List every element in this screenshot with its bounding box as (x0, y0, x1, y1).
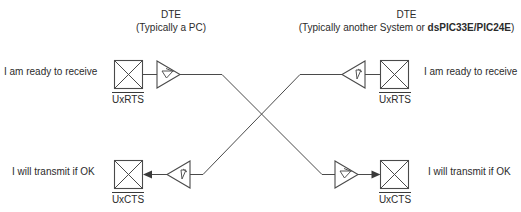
pad-right-rts-icon (381, 61, 409, 89)
arrowhead-right-cts-icon (372, 171, 381, 179)
arrowhead-left-cts-icon (143, 171, 152, 179)
link-right-rts-to-left-cts (203, 75, 329, 175)
pad-left-cts-icon (115, 161, 143, 189)
line-receiver-right-rts-icon (342, 61, 365, 88)
line-driver-left-rts-icon (157, 61, 180, 88)
pad-right-cts-icon (381, 161, 409, 189)
line-driver-right-cts-icon (335, 161, 358, 188)
flow-control-diagram: DTE (Typically a PC) DTE (Typically anot… (0, 0, 521, 212)
pad-left-rts-icon (115, 61, 143, 89)
link-left-rts-to-right-cts (193, 75, 322, 175)
diagram-wiring (0, 0, 521, 212)
line-receiver-left-cts-icon (167, 161, 190, 188)
